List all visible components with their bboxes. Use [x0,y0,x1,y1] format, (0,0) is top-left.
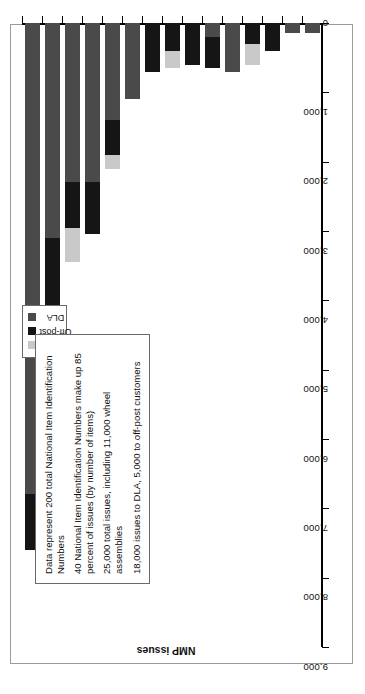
value-axis-tick [322,508,329,509]
value-axis-tick [322,231,329,232]
category-axis-tick [122,16,123,23]
bar-segment-dla [225,23,240,72]
bar-segment-off-post [185,23,200,65]
annotation-line: 18,000 issues to DLA, 5,000 to off-post … [131,344,143,574]
category-axis-tick [82,16,83,23]
category-axis-tick [242,16,243,23]
legend-item[interactable]: DLA [28,312,61,323]
bar-12[interactable] [265,23,280,51]
bar-segment-dla [45,23,60,238]
value-axis-tick [322,162,329,163]
category-axis-tick [142,16,143,23]
category-axis-tick [62,16,63,23]
bar-segment-dla [105,23,120,120]
bar-8[interactable] [185,23,200,65]
annotation-line: Data represent 200 total National Item I… [43,344,66,574]
value-axis-tick-label: 5,000 [303,384,328,395]
bar-segment-local [105,155,120,169]
bar-segment-dla [85,23,100,182]
bar-2[interactable] [65,23,80,262]
bar-segment-off-post [45,238,60,314]
bar-13[interactable] [285,23,300,33]
category-axis-tick [202,16,203,23]
value-axis-tick [322,370,329,371]
bar-segment-off-post [145,23,160,72]
category-axis-tick [22,16,23,23]
bar-7[interactable] [165,23,180,68]
value-axis-tick [322,439,329,440]
bar-segment-off-post [85,182,100,234]
category-axis-tick [102,16,103,23]
bar-segment-dla [125,23,140,99]
annotation-line: 40 National Item Identification Numbers … [72,344,95,574]
bar-segment-dla [285,23,300,33]
annotation-line: 25,000 total issues, including 11,000 wh… [101,344,124,574]
value-axis-tick-label: 7,000 [303,523,328,534]
value-axis-tick [322,647,329,648]
value-axis-tick [322,92,329,93]
bar-9[interactable] [205,23,220,68]
bar-segment-off-post [205,37,220,68]
value-axis-tick-label: 3,000 [303,246,328,257]
bar-1[interactable] [45,23,60,332]
chart-figure: NMP issues 9,0008,0007,0006,0005,0004,00… [0,0,365,694]
legend-swatch [28,314,36,322]
bar-5[interactable] [125,23,140,99]
legend-label: DLA [47,312,65,323]
bar-3[interactable] [85,23,100,234]
bar-segment-off-post [165,23,180,51]
category-axis-tick [302,16,303,23]
bar-14[interactable] [305,23,320,33]
category-axis-tick [182,16,183,23]
bar-segment-off-post [245,23,260,44]
bar-segment-local [65,228,80,263]
rotated-page-wrapper: NMP issues 9,0008,0007,0006,0005,0004,00… [0,0,365,694]
category-axis-tick [222,16,223,23]
category-axis-tick [282,16,283,23]
bar-segment-local [165,51,180,68]
bar-6[interactable] [145,23,160,72]
annotation-box: Data represent 200 total National Item I… [35,334,150,584]
value-axis-tick-label: 8,000 [303,592,328,603]
bar-segment-off-post [265,23,280,51]
bar-10[interactable] [225,23,240,72]
bar-4[interactable] [105,23,120,169]
value-axis-tick [322,578,329,579]
bar-segment-dla [205,23,220,37]
bar-segment-off-post [65,182,80,227]
value-axis-tick-label: 0 [323,18,328,29]
category-axis-tick [42,16,43,23]
bar-11[interactable] [245,23,260,65]
value-axis-tick-label: 6,000 [303,454,328,465]
bar-segment-dla [305,23,320,33]
bar-segment-local [245,44,260,65]
value-axis-tick-label: 9,000 [303,662,328,673]
category-axis-tick [162,16,163,23]
value-axis-tick [322,300,329,301]
value-axis-tick-label: 4,000 [303,315,328,326]
category-axis-tick [262,16,263,23]
bar-segment-off-post [105,120,120,155]
bar-segment-dla [65,23,80,182]
value-axis-tick-label: 2,000 [303,176,328,187]
value-axis-tick-label: 1,000 [303,107,328,118]
